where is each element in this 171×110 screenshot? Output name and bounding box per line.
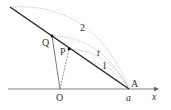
label-arc-2: 2: [80, 22, 85, 33]
segment-OQ: [52, 36, 60, 89]
label-A: A: [131, 78, 139, 89]
label-Q: Q: [42, 37, 50, 48]
label-x-axis: x: [151, 91, 157, 102]
label-O: O: [56, 92, 63, 103]
label-a: a: [126, 92, 131, 103]
label-arc-t: t: [97, 47, 100, 58]
point-P: [68, 48, 71, 51]
point-Q: [51, 35, 54, 38]
diagram-canvas: Q P A O a x 2 t 1: [0, 0, 171, 110]
label-arc-1: 1: [102, 60, 107, 71]
label-P: P: [60, 46, 66, 57]
